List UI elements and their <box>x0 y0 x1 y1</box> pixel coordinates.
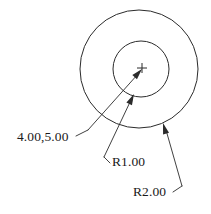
dimension-label-outer-radius: R2.00 <box>133 184 166 199</box>
leader-line-inner-radius <box>104 100 131 157</box>
leader-center-coordinate <box>76 67 144 136</box>
arrowhead-center-coordinate <box>132 67 144 79</box>
arrowhead-inner-radius <box>126 93 136 106</box>
dimension-label-inner-radius: R1.00 <box>112 154 145 169</box>
drawing-svg: 4.00,5.00 R1.00 R2.00 <box>0 0 211 214</box>
leader-shoulder-center-coordinate <box>76 130 88 136</box>
dimension-label-center-coordinate: 4.00,5.00 <box>17 129 69 144</box>
leader-outer-radius <box>160 122 182 192</box>
leader-shoulder-inner-radius <box>104 157 110 163</box>
cad-drawing-canvas: 4.00,5.00 R1.00 R2.00 <box>0 0 211 214</box>
inner-circle <box>113 41 169 97</box>
outer-circle <box>80 10 198 128</box>
leader-line-outer-radius <box>166 130 182 186</box>
leader-shoulder-outer-radius <box>173 186 182 192</box>
